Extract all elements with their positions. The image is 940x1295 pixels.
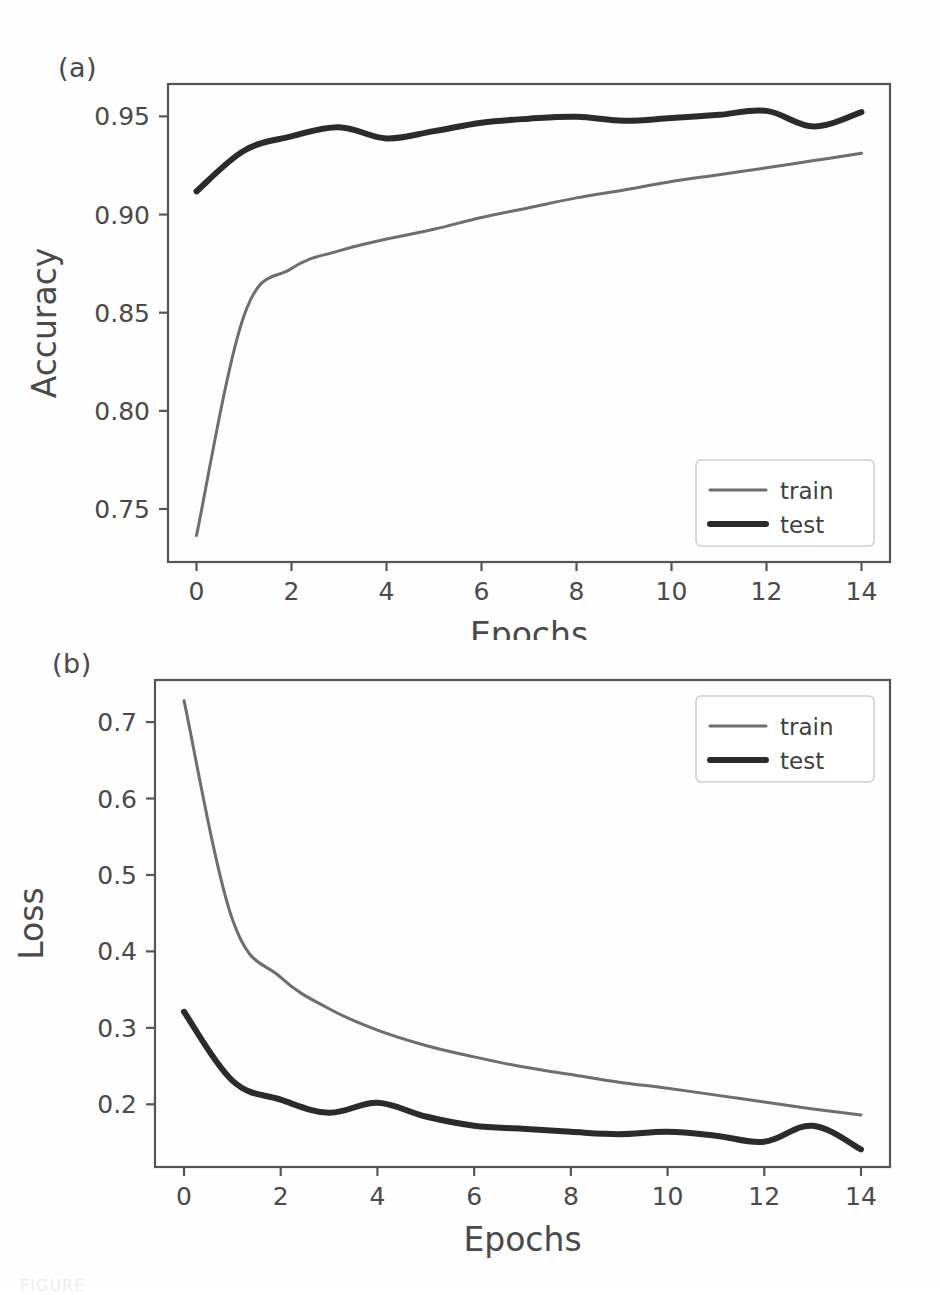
- y-tick-label: 0.85: [94, 299, 150, 328]
- x-tick-label: 4: [379, 577, 395, 606]
- x-tick-label: 8: [569, 577, 585, 606]
- legend-label-train: train: [780, 478, 834, 504]
- legend: traintest: [696, 696, 874, 782]
- legend: traintest: [696, 460, 874, 546]
- loss-chart-panel: 024681012140.20.30.40.50.60.7EpochsLosst…: [0, 640, 940, 1260]
- accuracy-line-chart: 024681012140.750.800.850.900.95EpochsAcc…: [0, 0, 940, 640]
- y-axis-title: Loss: [12, 887, 51, 959]
- y-tick-label: 0.3: [97, 1014, 137, 1043]
- x-tick-label: 10: [656, 577, 688, 606]
- x-tick-label: 6: [466, 1182, 482, 1211]
- y-tick-label: 0.90: [94, 201, 150, 230]
- x-tick-label: 14: [846, 577, 878, 606]
- x-axis-title: Epochs: [463, 1220, 581, 1259]
- y-tick-label: 0.5: [97, 861, 137, 890]
- x-tick-label: 6: [474, 577, 490, 606]
- x-tick-label: 12: [751, 577, 783, 606]
- series-line-test: [184, 1012, 861, 1150]
- x-tick-label: 8: [563, 1182, 579, 1211]
- y-tick-label: 0.6: [97, 785, 137, 814]
- x-tick-label: 0: [189, 577, 205, 606]
- x-tick-label: 2: [273, 1182, 289, 1211]
- x-tick-label: 4: [369, 1182, 385, 1211]
- x-tick-label: 14: [845, 1182, 877, 1211]
- y-tick-label: 0.80: [94, 397, 150, 426]
- x-tick-label: 2: [284, 577, 300, 606]
- legend-label-train: train: [780, 714, 834, 740]
- y-tick-label: 0.7: [97, 708, 137, 737]
- x-axis-title: Epochs: [470, 615, 588, 640]
- x-tick-label: 0: [176, 1182, 192, 1211]
- legend-label-test: test: [780, 512, 824, 538]
- series-line-test: [197, 110, 862, 191]
- y-tick-label: 0.75: [94, 495, 150, 524]
- x-tick-label: 10: [652, 1182, 684, 1211]
- figure-caption-fragment: FIGURE: [20, 1276, 85, 1295]
- x-tick-label: 12: [748, 1182, 780, 1211]
- accuracy-chart-panel: 024681012140.750.800.850.900.95EpochsAcc…: [0, 0, 940, 640]
- loss-line-chart: 024681012140.20.30.40.50.60.7EpochsLosst…: [0, 640, 940, 1260]
- y-axis-title: Accuracy: [25, 248, 64, 399]
- y-tick-label: 0.95: [94, 102, 150, 131]
- y-tick-label: 0.2: [97, 1090, 137, 1119]
- y-tick-label: 0.4: [97, 937, 137, 966]
- legend-label-test: test: [780, 748, 824, 774]
